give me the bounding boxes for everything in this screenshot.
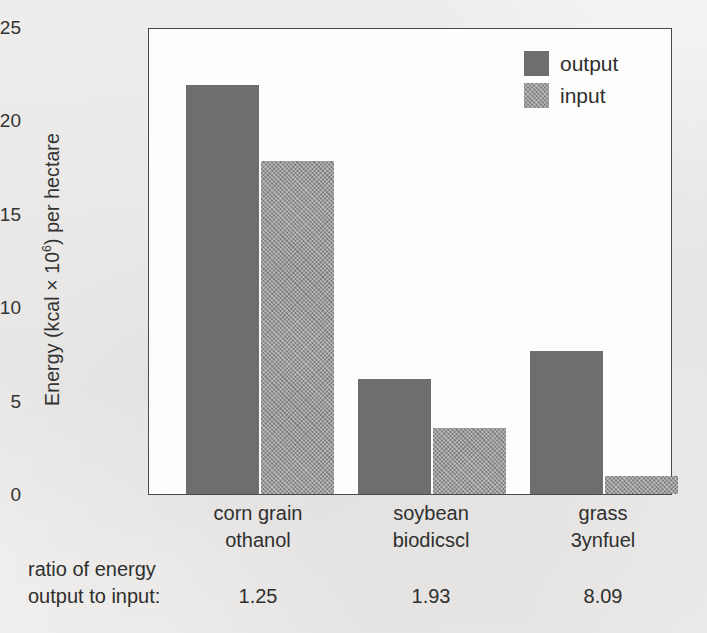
bar-chart-figure: Energy (kcal × 106) per hectare 25 20 15… (0, 0, 707, 633)
y-tick-label-10: 10 (0, 297, 21, 319)
y-tick-label-0: 0 (0, 484, 21, 506)
ratio-value-soybean-biodiesel: 1.93 (351, 583, 511, 610)
ratio-value-grass-synfuel: 8.09 (523, 583, 683, 610)
y-axis-title: Energy (kcal × 106) per hectare (41, 60, 64, 480)
bar-grass-synfuel-output (530, 351, 603, 494)
plot-area: output input (148, 28, 672, 495)
ratio-caption: ratio of energyoutput to input: (28, 556, 160, 610)
y-tick-label-25: 25 (0, 17, 21, 39)
legend: output input (524, 51, 618, 108)
ratio-value-corn-grain-ethanol: 1.25 (178, 583, 338, 610)
x-category-line2-soybean: biodicscl (351, 527, 511, 554)
x-category-line1-corn: corn grain (214, 502, 303, 524)
x-axis-category-labels: corn grain othanol soybean biodicscl gra… (148, 500, 672, 558)
x-category-label-grass-synfuel: grass 3ynfuel (523, 500, 683, 554)
x-category-line1-soybean: soybean (393, 502, 469, 524)
x-category-line2-corn: othanol (178, 527, 338, 554)
legend-swatch-input-icon (524, 83, 549, 108)
bar-grass-synfuel-input (605, 476, 678, 494)
legend-swatch-output-icon (524, 51, 549, 76)
y-tick-label-15: 15 (0, 204, 21, 226)
x-category-label-soybean-biodiesel: soybean biodicscl (351, 500, 511, 554)
legend-label-output: output (560, 52, 618, 76)
x-category-line2-grass: 3ynfuel (523, 527, 683, 554)
y-axis-title-exponent: 6 (40, 245, 54, 252)
x-category-line1-grass: grass (579, 502, 628, 524)
legend-item-output: output (524, 51, 618, 76)
ratio-caption-line1: ratio of energy (28, 558, 156, 580)
y-axis-title-main: Energy (kcal × 10 (41, 252, 63, 406)
bar-soybean-biodiesel-input (433, 428, 506, 494)
legend-label-input: input (560, 84, 606, 108)
ratio-caption-line2: output to input: (28, 585, 160, 607)
bar-corn-grain-ethanol-input (261, 161, 334, 494)
y-tick-label-5: 5 (0, 391, 21, 413)
x-category-label-corn-grain-ethanol: corn grain othanol (178, 500, 338, 554)
y-tick-label-20: 20 (0, 110, 21, 132)
bar-soybean-biodiesel-output (358, 379, 431, 494)
legend-item-input: input (524, 83, 618, 108)
bar-corn-grain-ethanol-output (186, 85, 259, 494)
y-axis-title-tail: ) per hectare (41, 133, 63, 245)
